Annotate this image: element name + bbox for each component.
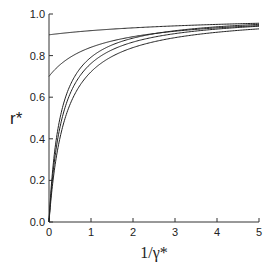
curves xyxy=(49,23,259,222)
x-axis-label: 1/γ* xyxy=(140,244,168,262)
chart: 0.00.20.40.60.81.0012345 r* 1/γ* xyxy=(0,0,271,273)
series-line-curve-5 xyxy=(49,29,259,222)
y-tick-label: 0.0 xyxy=(30,216,45,228)
y-axis-label: r* xyxy=(10,109,23,128)
y-tick-label: 0.2 xyxy=(30,174,45,186)
x-tick-label: 4 xyxy=(214,226,220,238)
series-line-curve-1 xyxy=(49,23,259,35)
y-tick-label: 0.4 xyxy=(30,133,45,145)
x-tick-label: 0 xyxy=(46,226,52,238)
series-line-curve-3 xyxy=(49,24,259,222)
series-line-curve-2 xyxy=(49,26,259,77)
x-tick-label: 5 xyxy=(256,226,262,238)
y-tick-label: 0.8 xyxy=(30,50,45,62)
axes: 0.00.20.40.60.81.0012345 xyxy=(30,8,262,238)
x-tick-label: 1 xyxy=(88,226,94,238)
x-tick-label: 3 xyxy=(172,226,178,238)
y-tick-label: 1.0 xyxy=(30,8,45,20)
x-tick-label: 2 xyxy=(130,226,136,238)
y-tick-label: 0.6 xyxy=(30,91,45,103)
series-line-curve-4 xyxy=(49,26,259,222)
